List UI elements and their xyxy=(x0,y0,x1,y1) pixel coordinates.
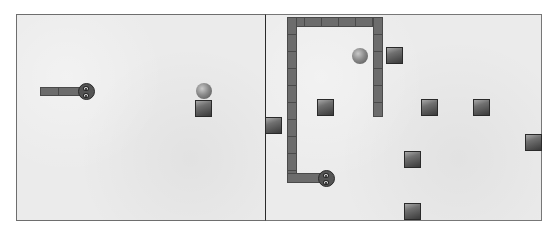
snake-body-left-column xyxy=(287,17,297,183)
block-obstacle xyxy=(473,99,490,116)
block-obstacle xyxy=(421,99,438,116)
snake-body-segment xyxy=(40,87,59,96)
block-obstacle xyxy=(386,47,403,64)
block-obstacle xyxy=(195,100,212,117)
ball-food xyxy=(352,48,368,64)
snake-eye-icon xyxy=(83,93,89,98)
block-obstacle xyxy=(404,151,421,168)
block-obstacle xyxy=(265,117,282,134)
snake-body-right-column xyxy=(373,17,383,117)
game-board-right xyxy=(265,14,542,221)
snake-body-segment xyxy=(58,87,80,96)
block-obstacle xyxy=(525,134,542,151)
snake-eye-icon xyxy=(323,173,329,178)
snake-body-top-row xyxy=(287,17,383,27)
snake-body-bottom-row xyxy=(287,173,321,183)
block-obstacle xyxy=(317,99,334,116)
snake-head xyxy=(318,170,335,187)
game-board-left xyxy=(16,14,266,221)
block-obstacle xyxy=(404,203,421,220)
snake-eye-icon xyxy=(323,180,329,185)
snake-eye-icon xyxy=(83,86,89,91)
ball-food xyxy=(196,83,212,99)
snake-head xyxy=(78,83,95,100)
